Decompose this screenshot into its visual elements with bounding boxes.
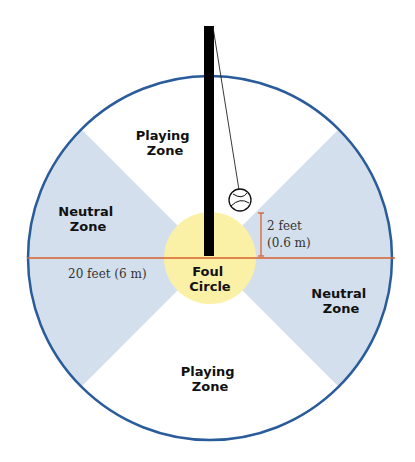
tetherball-court-diagram: Playing Zone Neutral Zone Neutral Zone P…: [0, 0, 415, 462]
tetherball-pole: [204, 26, 214, 256]
label-diameter-measurement: 20 feet (6 m): [68, 267, 147, 281]
label-foul-circle: Foul Circle: [189, 264, 231, 294]
tetherball-ball-icon: [229, 189, 251, 211]
